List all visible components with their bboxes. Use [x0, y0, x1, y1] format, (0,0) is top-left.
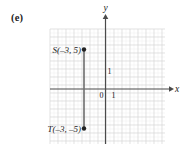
x-axis-label: x: [174, 84, 180, 94]
y-axis: [103, 14, 109, 144]
point-s-marker: [82, 47, 86, 51]
point-t-marker: [82, 126, 86, 130]
y-unit-tick-label: 1: [108, 67, 112, 76]
coordinate-plane: x y 0 1 1 S(–3, 5) T(–3, –5): [0, 0, 189, 156]
y-axis-label: y: [102, 3, 108, 13]
origin-label: 0: [100, 91, 104, 100]
figure-container: (e): [0, 0, 189, 156]
x-unit-tick-label: 1: [112, 91, 116, 100]
point-t-label: T(–3, –5): [48, 124, 82, 134]
point-s-label: S(–3, 5): [53, 45, 82, 55]
